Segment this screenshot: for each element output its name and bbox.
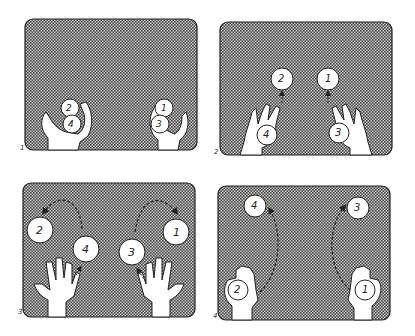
ball-label: 1 <box>161 103 167 113</box>
ball-label: 2 <box>36 224 43 237</box>
ball-label: 2 <box>234 284 240 295</box>
ball-label: 1 <box>173 226 180 239</box>
panel-2 <box>220 22 392 155</box>
ball-label: 1 <box>325 73 331 84</box>
ball-label: 4 <box>251 200 257 211</box>
panel-number: 2 <box>214 148 218 156</box>
panel-3 <box>23 183 195 317</box>
ball-label: 3 <box>128 246 135 259</box>
ball-label: 3 <box>335 127 341 138</box>
panel-number: 1 <box>20 144 24 152</box>
panel-4 <box>218 186 390 320</box>
juggling-illustration <box>0 0 415 336</box>
panel-number: 3 <box>18 308 22 316</box>
ball-label: 2 <box>278 73 284 84</box>
panel-1 <box>25 19 197 150</box>
ball-label: 3 <box>354 202 360 213</box>
ball-label: 3 <box>156 119 162 129</box>
ball-label: 4 <box>68 119 74 129</box>
ball-label: 4 <box>263 129 269 140</box>
panel-number: 4 <box>213 312 217 320</box>
ball-label: 4 <box>82 243 89 256</box>
ball-label: 1 <box>362 284 368 295</box>
ball-label: 2 <box>66 103 72 113</box>
